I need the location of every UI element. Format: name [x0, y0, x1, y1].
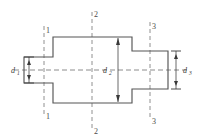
- dimension-d3-subscript: 3: [188, 70, 192, 76]
- section-label-2-top: 2: [94, 10, 98, 19]
- dimension-d1-arrow-down: [27, 75, 31, 80]
- dimension-d2-group: d 2: [103, 38, 120, 102]
- dimension-d1-arrow-up: [27, 60, 31, 65]
- dimension-d2-label: d: [103, 66, 108, 75]
- section-lines-group: [44, 12, 150, 130]
- technical-drawing-figure: d 1 d 2 d 3 1 1 2 2 3 3: [0, 0, 200, 140]
- dimension-d3-arrow-down: [174, 81, 178, 86]
- section-label-2-bottom: 2: [94, 127, 98, 136]
- dimension-d2-arrow-up: [116, 38, 120, 45]
- dimension-d3-arrow-up: [174, 54, 178, 59]
- section-label-1-bottom: 1: [46, 112, 50, 121]
- dimension-d2-subscript: 2: [109, 70, 112, 76]
- dimension-d1-label: d: [11, 66, 16, 75]
- section-label-3-top: 3: [152, 22, 156, 31]
- section-labels-group: 1 1 2 2 3 3: [46, 10, 156, 136]
- dimension-d3-label: d: [183, 66, 188, 75]
- dimension-d1-subscript: 1: [17, 70, 20, 76]
- dimension-d2-arrow-down: [116, 95, 120, 102]
- drawing-canvas: d 1 d 2 d 3 1 1 2 2 3 3: [0, 0, 200, 140]
- section-label-1-top: 1: [46, 26, 50, 35]
- section-label-3-bottom: 3: [152, 117, 156, 126]
